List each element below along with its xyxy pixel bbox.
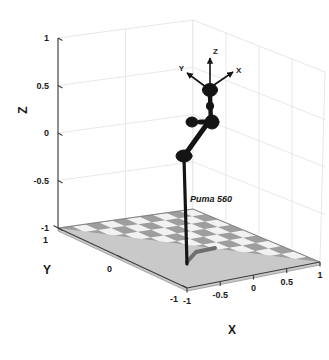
- x-tick-label: -0.5: [212, 290, 228, 300]
- z-tick-label: 1: [44, 33, 49, 43]
- z-axis-tick-labels: 1 0.5 0 -0.5 -1: [33, 33, 49, 233]
- z-axis-label: Z: [16, 106, 30, 113]
- robot-joint-wrist-3: [206, 102, 213, 110]
- x-tick-label: 0: [251, 283, 256, 293]
- x-tick-label: 1: [317, 270, 322, 280]
- frame-z-label: Z: [213, 47, 218, 56]
- robot-name-annotation: Puma 560: [190, 194, 232, 204]
- robot-joint-shoulder: [176, 150, 192, 162]
- robot-joint-elbow: [186, 117, 198, 127]
- x-tick-label: 0.5: [280, 277, 293, 287]
- z-tick-label: -0.5: [33, 176, 49, 186]
- x-axis-label: X: [228, 323, 236, 337]
- y-tick-label: 1: [43, 235, 48, 245]
- robot-3d-plot: 1 0.5 0 -0.5 -1 1 0 -1 -1 -0.5 0 0.5 1 Z…: [0, 0, 329, 360]
- frame-x-label: X: [236, 66, 242, 75]
- robot-joint-wrist-1: [205, 115, 219, 129]
- matlab-figure-canvas: 1 0.5 0 -0.5 -1 1 0 -1 -1 -0.5 0 0.5 1 Z…: [0, 0, 329, 360]
- y-tick-label: 0: [107, 264, 112, 274]
- y-tick-label: -1: [170, 294, 178, 304]
- frame-y-label: Y: [179, 64, 185, 73]
- z-tick-label: -1: [41, 223, 49, 233]
- y-axis-label: Y: [43, 263, 51, 277]
- z-tick-label: 0: [44, 128, 49, 138]
- z-tick-label: 0.5: [36, 81, 49, 91]
- x-tick-label: -1: [183, 296, 191, 306]
